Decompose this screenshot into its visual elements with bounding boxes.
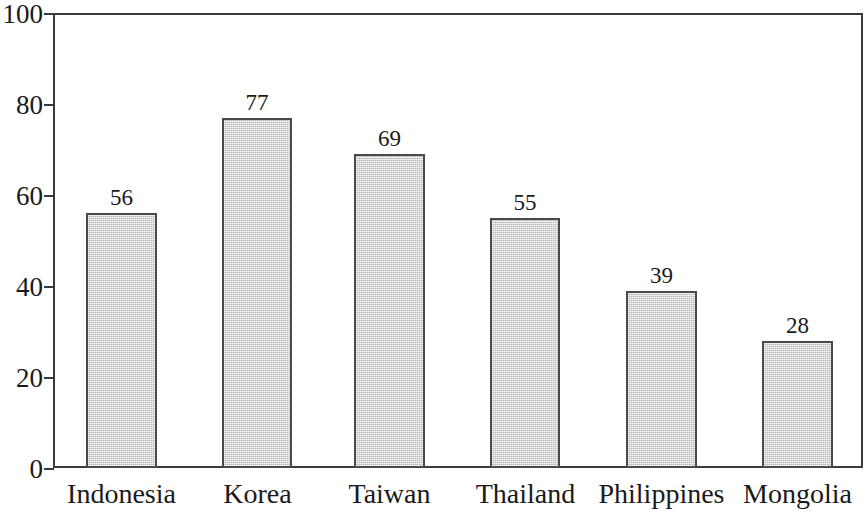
y-tick-label-60: 60 [0, 183, 43, 210]
bar-indonesia [86, 213, 157, 468]
bar-chart: 100 80 60 40 20 0 56 77 69 55 39 28 Indo… [0, 0, 868, 512]
y-tick-mark-20 [44, 377, 54, 379]
y-tick-mark-80 [44, 104, 54, 106]
y-tick-label-20: 20 [0, 365, 43, 392]
bar-value-indonesia: 56 [86, 186, 157, 209]
x-category-label-taiwan: Taiwan [319, 480, 460, 508]
y-tick-label-80: 80 [0, 92, 43, 119]
bar-value-mongolia: 28 [762, 314, 833, 337]
x-category-label-korea: Korea [187, 480, 328, 508]
bar-mongolia [762, 341, 833, 468]
bar-korea [222, 118, 292, 468]
plot-frame [53, 13, 863, 468]
bar-thailand [490, 218, 560, 468]
y-tick-mark-60 [44, 195, 54, 197]
y-tick-label-0: 0 [0, 456, 43, 483]
bar-value-korea: 77 [222, 91, 292, 114]
y-tick-mark-0 [44, 468, 54, 470]
y-tick-mark-40 [44, 286, 54, 288]
y-tick-label-100: 100 [0, 1, 43, 28]
x-category-label-mongolia: Mongolia [727, 480, 868, 508]
y-tick-mark-100 [44, 13, 54, 15]
bar-value-thailand: 55 [490, 191, 560, 214]
y-tick-label-40: 40 [0, 274, 43, 301]
bar-value-philippines: 39 [626, 264, 697, 287]
bar-value-taiwan: 69 [354, 127, 425, 150]
x-category-label-indonesia: Indonesia [51, 480, 192, 508]
bar-taiwan [354, 154, 425, 468]
bar-philippines [626, 291, 697, 468]
x-category-label-thailand: Thailand [455, 480, 596, 508]
x-category-label-philippines: Philippines [591, 480, 732, 508]
